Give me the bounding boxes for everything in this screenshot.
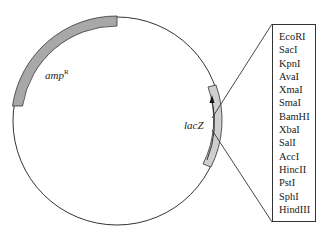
lacz-label: lacZ bbox=[184, 119, 204, 131]
site-smai: SmaI bbox=[279, 96, 315, 109]
site-avai: AvaI bbox=[279, 70, 315, 83]
callout-line-top bbox=[212, 24, 272, 118]
restriction-site-list: EcoRI SacI KpnI AvaI XmaI SmaI BamHI Xba… bbox=[272, 24, 316, 222]
amp-resistance-segment bbox=[13, 16, 118, 106]
amp-label: ampR bbox=[45, 68, 69, 81]
site-saci: SacI bbox=[279, 43, 315, 56]
site-sphi: SphI bbox=[279, 190, 315, 203]
site-hincii: HincII bbox=[279, 163, 315, 176]
site-xbai: XbaI bbox=[279, 123, 315, 136]
callout-line-bottom bbox=[212, 130, 272, 222]
site-acci: AccI bbox=[279, 150, 315, 163]
site-hindiii: HindIII bbox=[279, 203, 315, 216]
site-psti: PstI bbox=[279, 176, 315, 189]
site-bamhi: BamHI bbox=[279, 110, 315, 123]
site-kpni: KpnI bbox=[279, 57, 315, 70]
site-ecori: EcoRI bbox=[279, 30, 315, 43]
site-sali: SalI bbox=[279, 136, 315, 149]
site-xmai: XmaI bbox=[279, 83, 315, 96]
